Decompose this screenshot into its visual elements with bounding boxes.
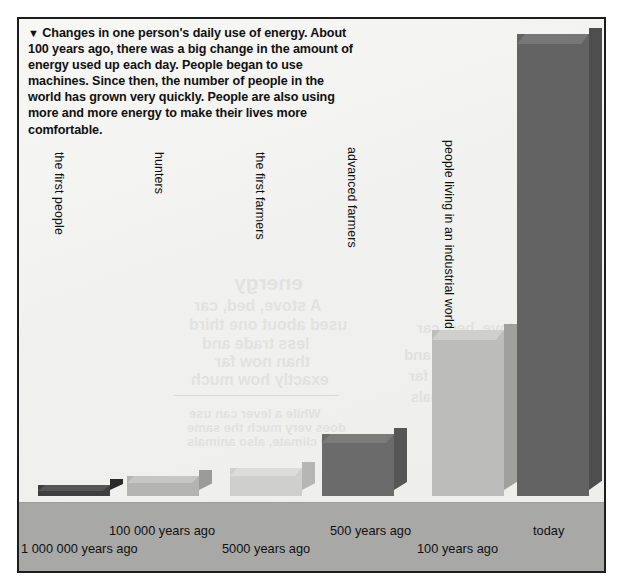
xtick-100-years-ago: 100 years ago [417, 541, 498, 556]
bar-hunters[interactable] [127, 476, 199, 496]
bar-industrial-world[interactable] [432, 330, 504, 496]
xtick-500-years-ago: 500 years ago [330, 523, 411, 538]
bar-the-first-people[interactable] [38, 485, 110, 496]
bar-front [322, 434, 394, 496]
bar-side [199, 470, 212, 490]
bar-side [589, 28, 602, 490]
caption-triangle-icon: ▼ [28, 27, 39, 39]
bar-label-hunters: hunters [152, 152, 166, 194]
bar-top [322, 434, 394, 443]
bar-label-the-first-farmers: the first farmers [253, 152, 267, 240]
bar-top [432, 330, 504, 340]
bar-label-industrial-world: people living in an industrial world [442, 140, 456, 329]
bar-top [517, 34, 589, 44]
bar-label-the-first-people: the first people [52, 152, 66, 235]
bar-advanced-farmers[interactable] [322, 434, 394, 496]
bar-label-advanced-farmers: advanced farmers [345, 147, 359, 248]
figure-page: energy A stove, bed, car used about one … [0, 0, 625, 582]
bar-side [394, 428, 407, 490]
xtick-today: today [533, 523, 564, 538]
figure-caption: ▼ Changes in one person's daily use of e… [28, 25, 360, 138]
caption-text: Changes in one person's daily use of ene… [28, 26, 353, 137]
bar-top [127, 476, 199, 483]
bar-the-first-farmers[interactable] [230, 468, 302, 496]
xtick-100000-years-ago: 100 000 years ago [109, 523, 215, 538]
bar-side [110, 479, 123, 490]
bar-side [504, 324, 517, 490]
xtick-1000000-years-ago: 1 000 000 years ago [21, 541, 138, 556]
bar-top [38, 485, 110, 491]
xtick-5000-years-ago: 5000 years ago [222, 541, 310, 556]
bar-top [230, 468, 302, 476]
bar-side [302, 462, 315, 490]
bar-today[interactable] [517, 34, 589, 496]
bar-front [517, 34, 589, 496]
energy-chart-figure: energy A stove, bed, car used about one … [17, 17, 606, 573]
bar-front [432, 330, 504, 496]
